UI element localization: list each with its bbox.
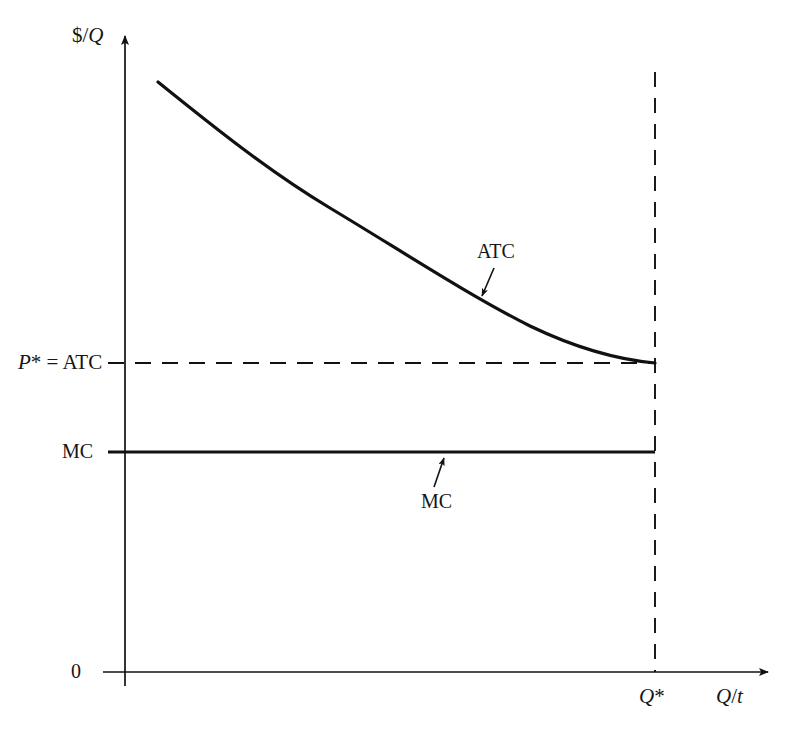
- qstar-star: *: [654, 684, 665, 708]
- mc-annotation-arrow: [434, 458, 444, 487]
- price-equilibrium-label: P* = ATC: [18, 352, 102, 373]
- y-axis-label: $/Q: [72, 25, 104, 46]
- atc-annotation-arrow: [482, 268, 494, 296]
- x-axis-label: Q/t: [716, 686, 743, 707]
- x-axis-label-time: t: [737, 684, 743, 708]
- y-axis-label-prefix: $/: [72, 23, 88, 47]
- y-axis-label-variable: Q: [88, 23, 103, 47]
- qstar-symbol: Q: [639, 684, 654, 708]
- price-equals-atc: = ATC: [41, 350, 102, 374]
- mc-axis-label: MC: [62, 441, 93, 461]
- quantity-equilibrium-label: Q*: [639, 686, 665, 707]
- natural-monopoly-cost-diagram: $/Q Q/t P* = ATC MC 0 Q* ATC MC: [0, 0, 796, 730]
- atc-curve-label: ATC: [477, 241, 515, 261]
- price-symbol: P: [18, 350, 31, 374]
- x-axis-label-quantity: Q: [716, 684, 731, 708]
- price-star: *: [31, 350, 42, 374]
- origin-label: 0: [71, 661, 81, 681]
- average-total-cost-curve: [158, 82, 655, 363]
- chart-canvas: [0, 0, 796, 730]
- mc-curve-label: MC: [421, 491, 452, 511]
